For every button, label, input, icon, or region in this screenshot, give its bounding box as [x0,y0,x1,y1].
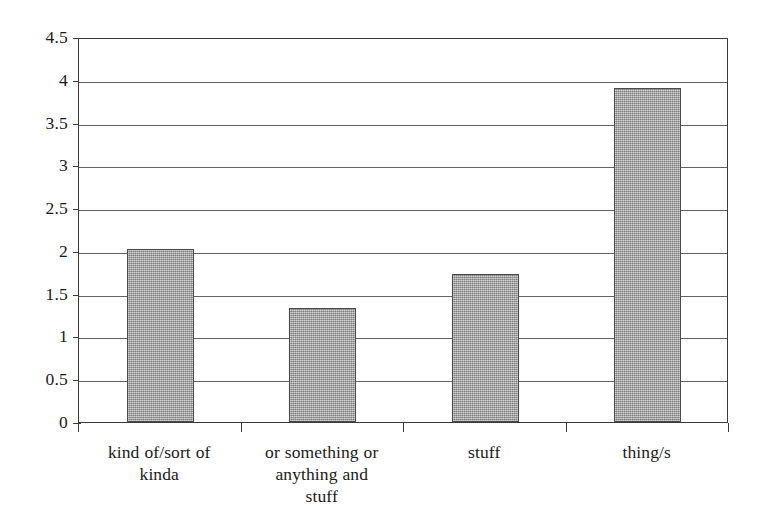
x-axis-category-label-line: stuff [403,441,566,463]
y-axis-tick-label: 2 [22,243,68,261]
y-axis-tick-label: 2.5 [22,200,68,218]
x-axis-category-label-line: kinda [78,463,241,485]
bar [614,88,681,422]
gridline [79,82,727,83]
x-axis-category-label: thing/s [566,441,729,463]
x-axis-category-label-line: or something or [241,441,404,463]
bar-chart-figure: 00.511.522.533.544.5 kind of/sort ofkind… [0,0,763,521]
bar [127,249,194,422]
x-axis-category-label: or something oranything andstuff [241,441,404,507]
bar [452,274,519,422]
y-axis-tick-label: 0 [22,414,68,432]
x-axis-category-label-line: anything and [241,463,404,485]
y-axis-tick-label: 4 [22,72,68,90]
x-axis-tick-mark [403,423,404,432]
x-axis-tick-mark [728,423,729,432]
x-axis-category-label-line: kind of/sort of [78,441,241,463]
x-axis-tick-mark [78,423,79,432]
y-axis-tick-label: 1.5 [22,286,68,304]
y-axis-tick-label: 3 [22,157,68,175]
bar [289,308,356,422]
x-axis-category-label-line: thing/s [566,441,729,463]
y-axis-tick-label: 1 [22,328,68,346]
plot-area [78,38,728,423]
x-axis-category-label: stuff [403,441,566,463]
y-axis-tick-mark [73,423,81,424]
y-axis-tick-label: 3.5 [22,115,68,133]
x-axis-category-label-line: stuff [241,485,404,507]
y-axis-tick-label: 4.5 [22,29,68,47]
x-axis-tick-mark [566,423,567,432]
x-axis-tick-mark [241,423,242,432]
y-axis-tick-label: 0.5 [22,371,68,389]
x-axis-category-label: kind of/sort ofkinda [78,441,241,485]
